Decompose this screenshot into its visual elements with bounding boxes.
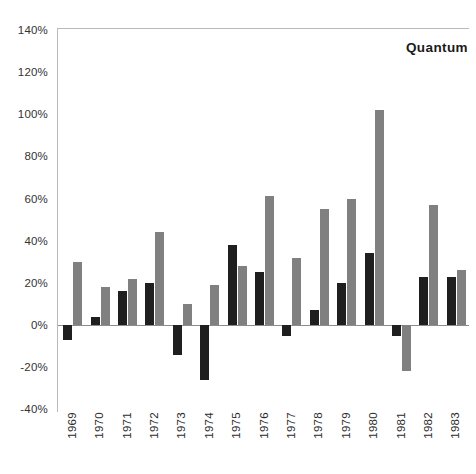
bar-dark-1983 [447, 277, 456, 325]
bar-light-1969 [73, 262, 82, 325]
y-axis-tick-label: -40% [20, 403, 48, 415]
bar-light-1975 [238, 266, 247, 325]
bar-group [118, 28, 137, 412]
bar-light-1974 [210, 285, 219, 325]
bar-group [173, 28, 192, 412]
x-axis-tick-label: 1978 [312, 412, 324, 439]
bar-dark-1970 [91, 317, 100, 325]
x-axis-tick-label: 1975 [230, 412, 242, 439]
y-axis-tick-label: 80% [24, 150, 48, 162]
x-axis-tick-label: 1981 [395, 412, 407, 439]
y-axis-tick-label: 100% [18, 108, 48, 120]
chart-page: Quantum 140%120%100%80%60%40%20%0%-20%-4… [0, 0, 476, 474]
bar-group [447, 28, 466, 412]
bar-group [228, 28, 247, 412]
x-axis-tick-label: 1974 [203, 412, 215, 439]
bar-dark-1973 [173, 325, 182, 355]
bar-dark-1977 [282, 325, 291, 336]
bar-light-1978 [320, 209, 329, 325]
bar-group [310, 28, 329, 412]
x-axis-tick-label: 1971 [121, 412, 133, 439]
bar-dark-1972 [145, 283, 154, 325]
y-axis-tick-label: 40% [24, 235, 48, 247]
bar-light-1982 [429, 205, 438, 325]
x-axis-tick-label: 1970 [93, 412, 105, 439]
bar-dark-1980 [365, 253, 374, 325]
bar-group [255, 28, 274, 412]
bar-group [145, 28, 164, 412]
bar-light-1976 [265, 196, 274, 325]
bar-light-1980 [375, 110, 384, 325]
x-axis-tick-label: 1979 [340, 412, 352, 439]
bar-light-1970 [101, 287, 110, 325]
x-axis: 1969197019711972197319741975197619771978… [58, 412, 469, 474]
y-axis-tick-label: 0% [31, 319, 48, 331]
x-axis-tick-label: 1969 [66, 412, 78, 439]
bar-group [365, 28, 384, 412]
bar-dark-1971 [118, 291, 127, 325]
bar-light-1981 [402, 325, 411, 371]
bar-light-1977 [292, 258, 301, 325]
y-axis: 140%120%100%80%60%40%20%0%-20%-40% [0, 0, 57, 474]
bar-light-1983 [457, 270, 466, 325]
y-axis-tick-label: 120% [18, 66, 48, 78]
bar-group [91, 28, 110, 412]
bar-dark-1978 [310, 310, 319, 325]
bar-dark-1974 [200, 325, 209, 380]
x-axis-tick-label: 1977 [285, 412, 297, 439]
y-axis-tick-label: 60% [24, 193, 48, 205]
x-axis-tick-label: 1983 [449, 412, 461, 439]
bar-dark-1969 [63, 325, 72, 340]
bar-group [337, 28, 356, 412]
bar-group [392, 28, 411, 412]
bar-group [282, 28, 301, 412]
bar-light-1979 [347, 199, 356, 325]
bar-group [200, 28, 219, 412]
y-axis-tick-label: 140% [18, 24, 48, 36]
bar-light-1973 [183, 304, 192, 325]
bar-dark-1975 [228, 245, 237, 325]
bar-light-1971 [128, 279, 137, 325]
x-axis-tick-label: 1972 [148, 412, 160, 439]
plot-area [58, 28, 469, 412]
bar-group [63, 28, 82, 412]
bar-dark-1981 [392, 325, 401, 336]
bar-dark-1976 [255, 272, 264, 325]
x-axis-tick-label: 1973 [175, 412, 187, 439]
x-axis-tick-label: 1982 [422, 412, 434, 439]
bar-dark-1979 [337, 283, 346, 325]
x-axis-tick-label: 1980 [367, 412, 379, 439]
bar-light-1972 [155, 232, 164, 325]
x-axis-tick-label: 1976 [258, 412, 270, 439]
y-axis-tick-label: -20% [20, 361, 48, 373]
y-axis-tick-label: 20% [24, 277, 48, 289]
bar-dark-1982 [419, 277, 428, 325]
bar-group [419, 28, 438, 412]
